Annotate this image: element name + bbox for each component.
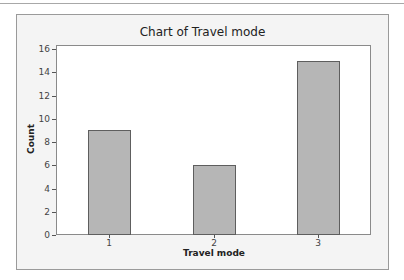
x-tick-label: 1	[99, 238, 119, 248]
y-tick	[52, 119, 56, 120]
y-tick	[52, 189, 56, 190]
bar-1	[88, 130, 131, 235]
x-tick-label: 2	[204, 238, 224, 248]
y-tick-label: 0	[20, 230, 50, 240]
y-tick	[52, 72, 56, 73]
x-axis-label: Travel mode	[164, 248, 264, 258]
y-tick	[52, 96, 56, 97]
top-divider	[0, 3, 404, 4]
y-tick	[52, 212, 56, 213]
x-tick-label: 3	[308, 238, 328, 248]
y-tick	[52, 142, 56, 143]
y-tick	[52, 235, 56, 236]
y-tick-label: 4	[20, 184, 50, 194]
y-tick	[52, 49, 56, 50]
y-tick-label: 12	[20, 91, 50, 101]
bar-2	[193, 165, 236, 235]
y-tick-label: 16	[20, 44, 50, 54]
chart-title: Chart of Travel mode	[16, 25, 389, 39]
bar-3	[297, 61, 340, 235]
y-tick	[52, 165, 56, 166]
y-tick-label: 14	[20, 67, 50, 77]
y-tick-label: 2	[20, 207, 50, 217]
y-axis-label: Count	[26, 114, 36, 164]
